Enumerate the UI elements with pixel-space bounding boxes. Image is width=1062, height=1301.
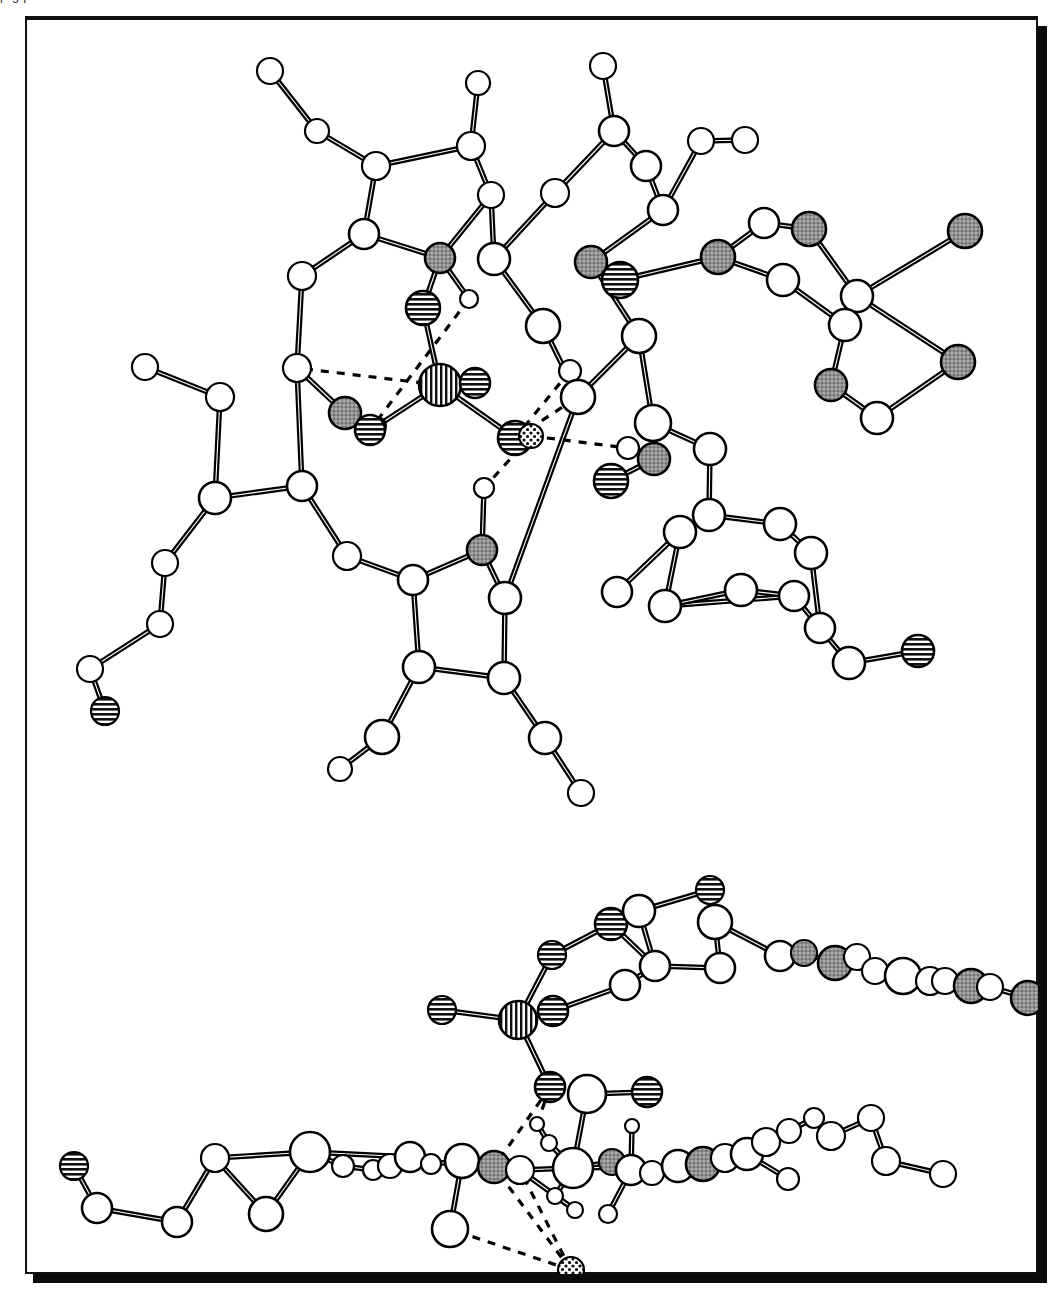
frame-shadow-right — [1038, 26, 1047, 1283]
carbon-atom — [332, 1155, 354, 1177]
top-clipped-text: p g p — [0, 0, 1062, 10]
carbon-atom — [290, 1132, 330, 1172]
carbon-atom — [610, 970, 640, 1000]
carbon-atom — [206, 383, 234, 411]
carbon-atom — [777, 1168, 799, 1190]
oxygen-atom — [535, 1072, 565, 1102]
carbon-atom — [365, 720, 399, 754]
carbon-atom — [977, 974, 1003, 1000]
carbon-atom — [590, 53, 616, 79]
nitrogen-atom — [701, 240, 735, 274]
oxygen-atom — [460, 368, 490, 398]
oxygen-atom — [538, 996, 568, 1026]
molecular-structure-canvas — [25, 18, 1038, 1274]
carbon-atom — [541, 1135, 557, 1151]
carbon-atom — [529, 722, 561, 754]
oxygen-atom — [428, 996, 456, 1024]
nitrogen-atom — [815, 369, 847, 401]
carbon-atom — [362, 152, 390, 180]
nitrogen-atom — [467, 535, 497, 565]
carbon-atom — [553, 1148, 593, 1188]
nitrogen-atom — [1011, 981, 1038, 1015]
oxygen-atom — [355, 415, 385, 445]
covalent-bond-highlight — [857, 231, 965, 296]
atom-layer-top-view — [77, 53, 982, 806]
carbon-atom — [547, 1188, 563, 1204]
carbon-atom — [862, 958, 888, 984]
oxygen-atom — [594, 464, 628, 498]
carbon-atom — [559, 360, 581, 382]
hydrogen-bond — [531, 436, 628, 448]
carbon-atom — [599, 116, 629, 146]
carbon-atom — [693, 499, 725, 531]
carbon-atom — [474, 478, 494, 498]
oxygen-atom — [538, 941, 566, 969]
atom-layer-bottom-view — [60, 876, 1038, 1274]
carbon-atom — [631, 151, 661, 181]
carbon-atom — [132, 354, 158, 380]
carbon-atom — [833, 647, 865, 679]
oxygen-atom — [696, 876, 724, 904]
carbon-atom — [752, 1128, 780, 1156]
carbon-atom — [201, 1144, 229, 1172]
carbon-atom — [664, 516, 696, 548]
carbon-atom — [305, 119, 329, 143]
nitrogen-atom — [948, 214, 982, 248]
carbon-atom — [77, 656, 103, 682]
oxygen-atom — [902, 635, 934, 667]
carbon-atom — [623, 895, 655, 927]
carbon-atom — [199, 482, 231, 514]
carbon-atom — [530, 1117, 544, 1131]
carbon-atom — [648, 195, 678, 225]
carbon-atom — [861, 402, 893, 434]
carbon-atom — [288, 262, 316, 290]
carbon-atom — [764, 508, 796, 540]
carbon-atom — [602, 577, 632, 607]
carbon-atom — [767, 264, 799, 296]
oxygen-atom — [632, 1077, 662, 1107]
carbon-atom — [622, 319, 656, 353]
carbon-atom — [705, 953, 735, 983]
carbon-atom — [698, 905, 732, 939]
carbon-atom — [398, 565, 428, 595]
water-oxygen — [558, 1257, 584, 1274]
phosphorus-atom — [499, 1001, 537, 1039]
oxygen-atom — [602, 262, 638, 298]
carbon-atom — [488, 662, 520, 694]
carbon-atom — [795, 537, 827, 569]
carbon-atom — [445, 1144, 479, 1178]
carbon-atom — [732, 127, 758, 153]
carbon-atom — [541, 179, 569, 207]
carbon-atom — [625, 1119, 639, 1133]
carbon-atom — [287, 471, 317, 501]
carbon-atom — [885, 958, 921, 994]
carbon-atom — [930, 1161, 956, 1187]
carbon-atom — [872, 1147, 900, 1175]
carbon-atom — [82, 1193, 112, 1223]
carbon-atom — [460, 290, 478, 308]
oxygen-atom — [91, 697, 119, 725]
carbon-atom — [829, 309, 861, 341]
carbon-atom — [817, 1122, 845, 1150]
nitrogen-atom — [638, 443, 670, 475]
carbon-atom — [779, 581, 809, 611]
figure-page: p g p — [0, 0, 1062, 1301]
nitrogen-atom — [792, 212, 826, 246]
carbon-atom — [561, 380, 595, 414]
carbon-atom — [506, 1156, 534, 1184]
carbon-atom — [162, 1207, 192, 1237]
carbon-atom — [349, 219, 379, 249]
nitrogen-atom — [791, 940, 817, 966]
carbon-atom — [688, 128, 714, 154]
frame-shadow-bottom — [33, 1274, 1046, 1283]
carbon-atom — [858, 1105, 884, 1131]
carbon-atom — [567, 1202, 583, 1218]
carbon-atom — [805, 613, 835, 643]
carbon-atom — [328, 757, 352, 781]
carbon-atom — [617, 437, 639, 459]
carbon-atom — [283, 354, 311, 382]
carbon-atom — [777, 1119, 801, 1143]
water-oxygen — [519, 424, 543, 448]
carbon-atom — [489, 582, 521, 614]
carbon-atom — [432, 1211, 468, 1247]
